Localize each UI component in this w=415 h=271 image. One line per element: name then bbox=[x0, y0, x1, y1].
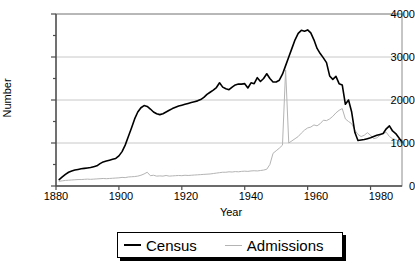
y-tick-label-2000: 2000 bbox=[371, 95, 415, 106]
x-tick-label-1900: 1900 bbox=[99, 191, 143, 202]
y-axis-title: Number bbox=[1, 68, 13, 128]
legend-line-swatch-admissions-icon bbox=[225, 245, 242, 246]
legend-line-swatch-census-icon bbox=[124, 244, 141, 246]
legend-label-admissions: Admissions bbox=[247, 238, 324, 253]
x-axis-title: Year bbox=[186, 206, 276, 218]
x-tick-label-1880: 1880 bbox=[34, 191, 78, 202]
y-tick-label-3000: 3000 bbox=[371, 52, 415, 63]
chart-legend: Census Admissions bbox=[117, 232, 343, 258]
chart-figure: 4000 3000 2000 1000 0 1880 1900 1920 194… bbox=[0, 0, 415, 271]
legend-label-census: Census bbox=[146, 238, 197, 253]
x-tick-label-1980: 1980 bbox=[359, 191, 403, 202]
x-tick-label-1960: 1960 bbox=[294, 191, 338, 202]
x-tick-label-1920: 1920 bbox=[164, 191, 208, 202]
x-tick-label-1940: 1940 bbox=[229, 191, 273, 202]
y-tick-label-1000: 1000 bbox=[371, 138, 415, 149]
legend-item-admissions[interactable]: Admissions bbox=[225, 233, 324, 257]
plot-area bbox=[0, 0, 415, 271]
y-tick-label-4000: 4000 bbox=[371, 9, 415, 20]
legend-item-census[interactable]: Census bbox=[124, 233, 197, 257]
